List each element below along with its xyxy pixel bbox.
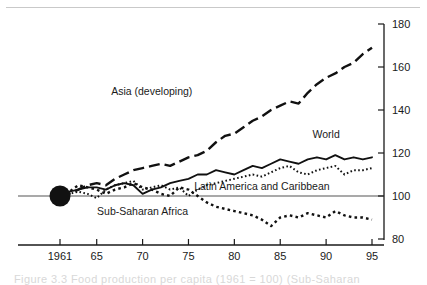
y-tick-label: 80 (392, 233, 404, 245)
series-annotations: Asia (developing)WorldLatin America and … (97, 85, 340, 217)
figure-container: 80100120140160180 196165707580859095 Asi… (0, 0, 427, 285)
series-label-sub-saharan-africa: Sub-Saharan Africa (97, 205, 188, 217)
figure-caption: Figure 3.3 Food production per capita (1… (14, 273, 414, 285)
series-line-asia-developing (60, 48, 372, 196)
y-tick-label: 160 (392, 61, 410, 73)
x-tick-label: 85 (274, 250, 286, 262)
x-tick-label: 1961 (48, 250, 72, 262)
y-tick-label: 140 (392, 104, 410, 116)
series-label-latin-america-and-caribbean: Latin America and Caribbean (194, 180, 330, 192)
x-tick-label: 65 (91, 250, 103, 262)
x-tick-label: 80 (228, 250, 240, 262)
x-axis-tick-labels: 196165707580859095 (48, 250, 378, 262)
y-axis-tick-labels: 80100120140160180 (392, 18, 410, 245)
y-tick-label: 120 (392, 147, 410, 159)
y-tick-label: 100 (392, 190, 410, 202)
baseline-origin-marker (50, 186, 71, 207)
y-tick-label: 180 (392, 18, 410, 30)
series-label-asia-developing: Asia (developing) (111, 85, 192, 97)
x-tick-label: 75 (182, 250, 194, 262)
x-tick-label: 70 (136, 250, 148, 262)
x-tick-label: 90 (320, 250, 332, 262)
series-label-world: World (313, 128, 340, 140)
y-axis-ticks (378, 24, 384, 239)
line-chart: 80100120140160180 196165707580859095 Asi… (0, 0, 427, 285)
x-axis-ticks (60, 239, 372, 245)
x-tick-label: 95 (366, 250, 378, 262)
